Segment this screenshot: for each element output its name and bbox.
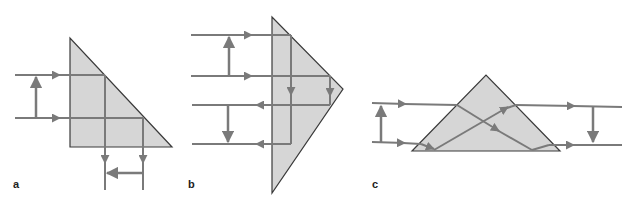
panel-b — [191, 17, 343, 193]
panel-label-c: c — [372, 178, 378, 190]
panel-label-a: a — [13, 178, 19, 190]
prism-c — [412, 75, 560, 151]
panel-a — [15, 38, 172, 190]
prism-a — [70, 38, 172, 147]
prism-diagrams — [0, 0, 635, 201]
panel-c — [372, 75, 622, 151]
panel-label-b: b — [188, 178, 195, 190]
